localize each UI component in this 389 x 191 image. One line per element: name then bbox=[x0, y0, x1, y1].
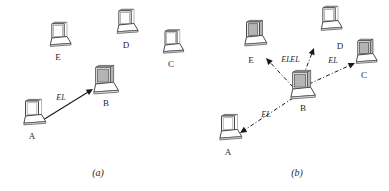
laptop-screen-inner bbox=[53, 25, 62, 36]
figure-root: ELABCDEELELELELABCDE (a)(b) bbox=[0, 0, 389, 191]
node-label-b-C: C bbox=[361, 70, 367, 80]
edge-label-a-A-B: EL bbox=[55, 93, 66, 102]
laptop-lid-side bbox=[307, 70, 310, 89]
laptop-screen-inner bbox=[167, 33, 176, 44]
laptop-screen-inner bbox=[120, 12, 129, 23]
panel-caption-b: (b) bbox=[291, 167, 303, 179]
edge-label-b-B-D: EL bbox=[289, 55, 300, 64]
edge-label-b-B-A: EL bbox=[260, 110, 271, 119]
node-label-a-B: B bbox=[103, 98, 109, 108]
node-label-b-D: D bbox=[337, 41, 344, 51]
node-label-b-A: A bbox=[225, 147, 232, 157]
network-diagram: ELABCDEELELELELABCDE (a)(b) bbox=[0, 0, 389, 191]
laptop-screen-inner bbox=[359, 42, 368, 53]
node-label-b-B: B bbox=[300, 103, 306, 113]
panel-caption-a: (a) bbox=[92, 167, 104, 179]
laptop-screen-inner bbox=[27, 103, 37, 115]
laptop-lid-side bbox=[110, 65, 113, 84]
laptop-screen-inner bbox=[324, 9, 333, 20]
laptop-screen-inner bbox=[223, 118, 233, 130]
node-label-a-E: E bbox=[55, 52, 61, 62]
node-label-a-D: D bbox=[123, 40, 130, 50]
edge-label-b-B-C: EL bbox=[327, 56, 338, 65]
node-label-a-C: C bbox=[168, 59, 174, 69]
laptop-screen-inner bbox=[248, 24, 258, 36]
laptop-screen-inner bbox=[98, 69, 109, 82]
laptop-screen-inner bbox=[295, 74, 306, 87]
node-label-a-A: A bbox=[29, 131, 36, 141]
node-label-b-E: E bbox=[248, 55, 254, 65]
